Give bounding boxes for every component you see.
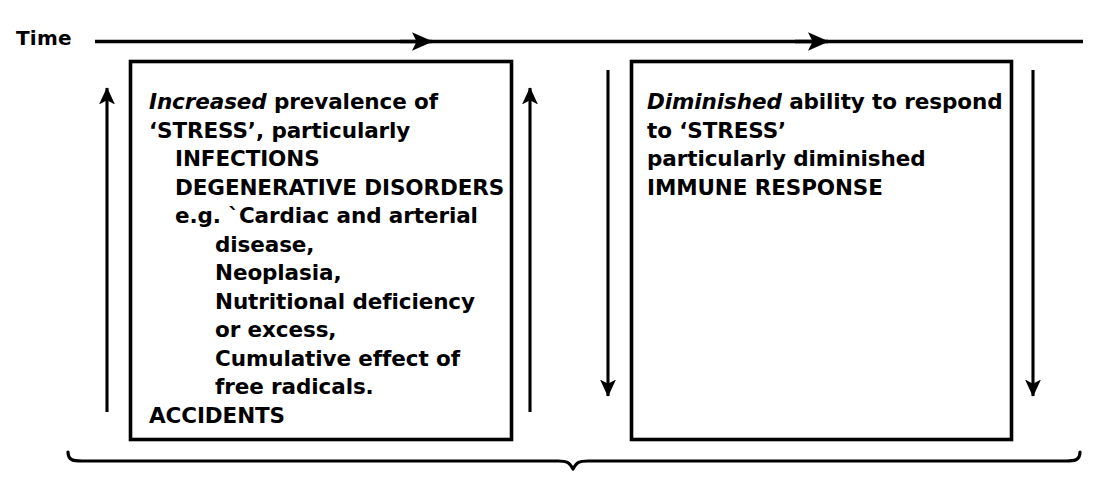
text-line: to ‘STRESS’ (647, 117, 1003, 146)
text-line: or excess, (149, 316, 504, 345)
text-line: particularly diminished (647, 145, 1003, 174)
bottom-brace (68, 452, 1080, 469)
left-box-text: Increased prevalence of‘STRESS’, particu… (149, 88, 504, 430)
text-line: ACCIDENTS (149, 402, 504, 431)
text-line: DEGENERATIVE DISORDERS (149, 174, 504, 203)
text-line: Nutritional deficiency (149, 288, 504, 317)
emphasised-word: Increased (149, 89, 267, 114)
right-box-text: Diminished ability to respondto ‘STRESS’… (647, 88, 1003, 202)
text-line: Diminished ability to respond (647, 88, 1003, 117)
time-axis-label: Time (16, 26, 72, 50)
text-line: INFECTIONS (149, 145, 504, 174)
text-line: ‘STRESS’, particularly (149, 117, 504, 146)
emphasised-word: Diminished (647, 89, 782, 114)
text-line: free radicals. (149, 373, 504, 402)
diagram-canvas: Time Increased prevalence of‘STRESS’, pa… (0, 0, 1105, 478)
text-line: Cumulative effect of (149, 345, 504, 374)
text-line: Increased prevalence of (149, 88, 504, 117)
text-line: IMMUNE RESPONSE (647, 174, 1003, 203)
text-line: Neoplasia, (149, 259, 504, 288)
text-line: e.g. `Cardiac and arterial (149, 202, 504, 231)
text-line: disease, (149, 231, 504, 260)
